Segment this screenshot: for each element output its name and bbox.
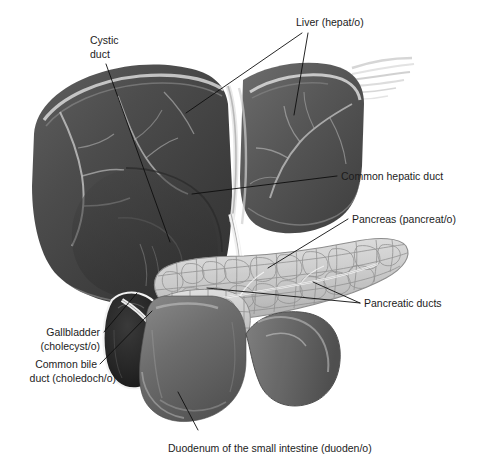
liver-right-lobe bbox=[240, 63, 364, 233]
duodenum-shape bbox=[139, 296, 340, 422]
label-duodenum: Duodenum of the small intestine (duoden/… bbox=[168, 442, 372, 454]
label-pancreatic-ducts: Pancreatic ducts bbox=[364, 297, 442, 309]
label-liver: Liver (hepat/o) bbox=[296, 16, 364, 28]
label-gallbladder-line1: Gallbladder bbox=[46, 326, 100, 338]
label-common-hepatic-duct: Common hepatic duct bbox=[341, 170, 443, 182]
label-common-bile-duct-line2: duct (choledoch/o) bbox=[30, 372, 116, 384]
label-cystic-duct-line1: Cystic bbox=[90, 34, 119, 46]
anatomy-figure: Liver (hepat/o) Cystic duct Common hepat… bbox=[0, 0, 482, 466]
label-cystic-duct-line2: duct bbox=[90, 48, 110, 60]
anatomy-illustration: Liver (hepat/o) Cystic duct Common hepat… bbox=[0, 0, 482, 466]
label-gallbladder-line2: (cholecyst/o) bbox=[40, 340, 100, 352]
label-pancreas: Pancreas (pancreat/o) bbox=[352, 213, 456, 225]
label-common-bile-duct-line1: Common bile bbox=[35, 358, 97, 370]
